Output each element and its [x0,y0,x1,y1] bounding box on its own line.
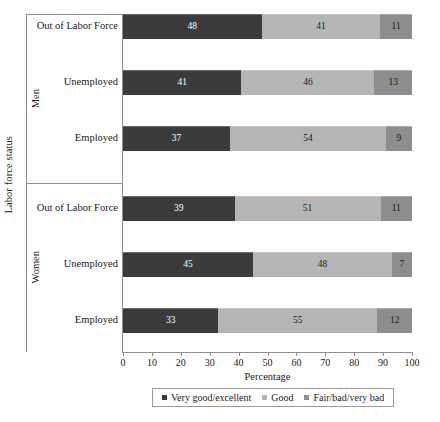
stacked-bar: 45487 [123,252,412,277]
legend-item[interactable]: Fair/bad/very bad [304,392,384,403]
bar-segment: 12 [377,308,412,333]
stacked-bar-chart: Labor force status Men Women Out of Labo… [0,0,440,422]
bar-row: 395111 [123,196,412,221]
x-axis-tick [181,352,182,356]
bar-segment: 48 [123,14,262,39]
x-axis-tick [383,352,384,356]
legend-label: Very good/excellent [171,392,251,403]
bar-segment-value: 51 [303,204,313,214]
bar-segment-value: 13 [388,78,398,88]
legend-item[interactable]: Very good/excellent [162,392,251,403]
bar-row: 414613 [123,70,412,95]
bar-segment-value: 39 [174,204,184,214]
bar-segment: 45 [123,252,253,277]
category-label: Employed [0,314,118,325]
stacked-bar: 335512 [123,308,412,333]
bar-row: 484111 [123,14,412,39]
bar-segment: 54 [230,126,386,151]
category-label: Out of Labor Force [0,202,118,213]
y-axis-title: Labor force status [0,110,16,240]
x-axis-tick [296,352,297,356]
x-axis-tick [412,352,413,356]
x-axis-tick [239,352,240,356]
legend-label: Fair/bad/very bad [313,392,384,403]
plot-area: 4841114146133754939511145487335512 [123,14,412,352]
legend-label: Good [271,392,293,403]
bar-segment-value: 11 [392,22,401,32]
chart-legend: Very good/excellentGoodFair/bad/very bad [152,388,394,407]
group-label-men-text: Men [30,89,41,108]
x-axis-tick [152,352,153,356]
bar-segment: 11 [381,196,412,221]
bar-segment-value: 46 [303,78,313,88]
legend-swatch-icon [304,395,309,400]
x-axis-title: Percentage [123,371,412,382]
bar-segment: 11 [380,14,412,39]
bar-segment: 41 [123,70,241,95]
legend-swatch-icon [162,395,167,400]
bar-segment: 39 [123,196,235,221]
bar-segment: 7 [392,252,412,277]
bar-segment-value: 33 [166,316,176,326]
stacked-bar: 395111 [123,196,412,221]
bar-row: 335512 [123,308,412,333]
bar-segment-value: 41 [177,78,187,88]
bar-row: 45487 [123,252,412,277]
bar-segment: 48 [253,252,392,277]
x-axis-tick [210,352,211,356]
bar-segment-value: 7 [400,260,405,270]
bar-segment: 9 [386,126,412,151]
stacked-bar: 414613 [123,70,412,95]
bar-segment-value: 12 [390,316,400,326]
bar-segment-value: 54 [303,134,313,144]
bar-segment-value: 55 [293,316,303,326]
category-label: Out of Labor Force [0,20,118,31]
stacked-bar: 37549 [123,126,412,151]
bar-segment: 41 [262,14,380,39]
x-axis-tick [268,352,269,356]
bar-segment-value: 37 [172,134,182,144]
bar-segment: 46 [241,70,374,95]
group-label-men: Men [27,14,44,183]
category-label: Unemployed [0,258,118,269]
bar-segment-value: 48 [188,22,198,32]
category-label: Unemployed [0,76,118,87]
bar-row: 37549 [123,126,412,151]
legend-swatch-icon [262,395,267,400]
bar-segment: 13 [374,70,412,95]
x-axis-tick [123,352,124,356]
bar-segment: 37 [123,126,230,151]
bar-segment-value: 11 [392,204,401,214]
bar-segment-value: 9 [397,134,402,144]
bar-segment: 51 [235,196,381,221]
category-label: Employed [0,132,118,143]
bar-segment-value: 48 [318,260,328,270]
x-axis-tick [325,352,326,356]
bar-segment-value: 45 [183,260,193,270]
stacked-bar: 484111 [123,14,412,39]
legend-item[interactable]: Good [262,392,293,403]
x-axis-tick [354,352,355,356]
x-axis-tick-label: 100 [392,357,432,368]
bar-segment: 33 [123,308,218,333]
bar-segment-value: 41 [316,22,326,32]
bar-segment: 55 [218,308,377,333]
